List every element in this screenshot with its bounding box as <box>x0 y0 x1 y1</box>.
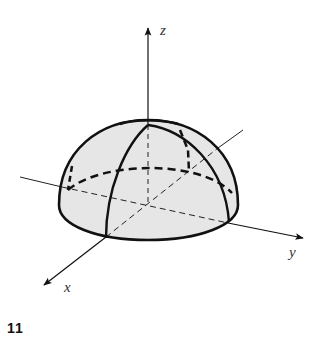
x-axis <box>44 237 106 285</box>
x-axis-negative-line <box>218 130 243 148</box>
y-axis-label: y <box>287 244 296 260</box>
hemisphere-diagram: z y x <box>0 0 312 344</box>
y-axis-negative-line <box>20 177 62 187</box>
y-axis <box>228 223 303 238</box>
x-axis-label: x <box>63 279 71 295</box>
z-axis-label: z <box>159 22 166 38</box>
figure-number: 11 <box>7 320 24 336</box>
